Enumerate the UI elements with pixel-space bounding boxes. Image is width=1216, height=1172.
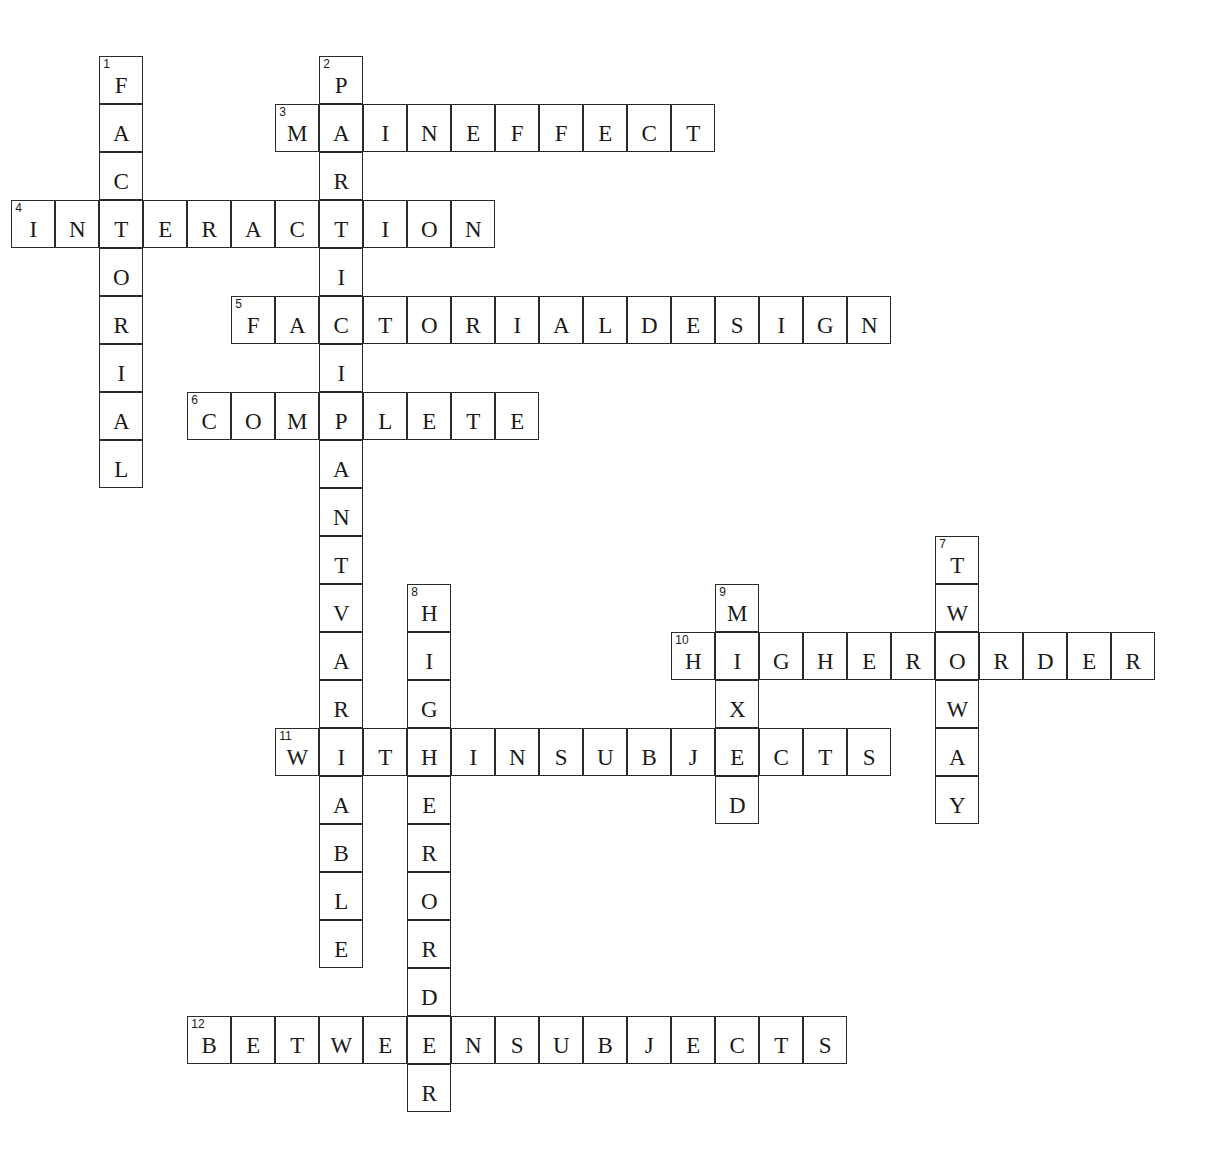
crossword-cell[interactable]: E bbox=[583, 104, 627, 152]
crossword-cell[interactable]: E bbox=[495, 392, 539, 440]
crossword-cell[interactable]: D bbox=[407, 968, 451, 1016]
crossword-cell[interactable]: M bbox=[275, 392, 319, 440]
crossword-cell[interactable]: R bbox=[319, 680, 363, 728]
crossword-cell[interactable]: A bbox=[319, 632, 363, 680]
crossword-cell[interactable]: D bbox=[715, 776, 759, 824]
crossword-cell[interactable]: W bbox=[935, 680, 979, 728]
crossword-cell[interactable]: 9M bbox=[715, 584, 759, 632]
crossword-cell[interactable]: C bbox=[627, 104, 671, 152]
crossword-cell[interactable]: I bbox=[363, 200, 407, 248]
crossword-cell[interactable]: N bbox=[319, 488, 363, 536]
crossword-cell[interactable]: N bbox=[495, 728, 539, 776]
crossword-cell[interactable]: P bbox=[319, 392, 363, 440]
crossword-cell[interactable]: C bbox=[99, 152, 143, 200]
crossword-cell[interactable]: 5F bbox=[231, 296, 275, 344]
crossword-cell[interactable]: V bbox=[319, 584, 363, 632]
crossword-cell[interactable]: E bbox=[319, 920, 363, 968]
crossword-cell[interactable]: N bbox=[451, 200, 495, 248]
crossword-cell[interactable]: T bbox=[363, 728, 407, 776]
crossword-cell[interactable]: E bbox=[407, 392, 451, 440]
crossword-cell[interactable]: C bbox=[275, 200, 319, 248]
crossword-cell[interactable]: G bbox=[759, 632, 803, 680]
crossword-cell[interactable]: S bbox=[803, 1016, 847, 1064]
crossword-cell[interactable]: A bbox=[319, 776, 363, 824]
crossword-cell[interactable]: Y bbox=[935, 776, 979, 824]
crossword-cell[interactable]: A bbox=[275, 296, 319, 344]
crossword-cell[interactable]: I bbox=[319, 248, 363, 296]
crossword-cell[interactable]: O bbox=[407, 200, 451, 248]
crossword-cell[interactable]: N bbox=[55, 200, 99, 248]
crossword-cell[interactable]: B bbox=[319, 824, 363, 872]
crossword-cell[interactable]: 11W bbox=[275, 728, 319, 776]
crossword-cell[interactable]: R bbox=[407, 1064, 451, 1112]
crossword-cell[interactable]: W bbox=[319, 1016, 363, 1064]
crossword-cell[interactable]: A bbox=[99, 104, 143, 152]
crossword-cell[interactable]: R bbox=[187, 200, 231, 248]
crossword-cell[interactable]: R bbox=[979, 632, 1023, 680]
crossword-cell[interactable]: G bbox=[803, 296, 847, 344]
crossword-cell[interactable]: E bbox=[363, 1016, 407, 1064]
crossword-cell[interactable]: E bbox=[231, 1016, 275, 1064]
crossword-cell[interactable]: T bbox=[451, 392, 495, 440]
crossword-cell[interactable]: T bbox=[319, 536, 363, 584]
crossword-cell[interactable]: U bbox=[583, 728, 627, 776]
crossword-cell[interactable]: E bbox=[451, 104, 495, 152]
crossword-cell[interactable]: A bbox=[539, 296, 583, 344]
crossword-cell[interactable]: S bbox=[495, 1016, 539, 1064]
crossword-cell[interactable]: L bbox=[363, 392, 407, 440]
crossword-cell[interactable]: E bbox=[407, 1016, 451, 1064]
crossword-cell[interactable]: S bbox=[847, 728, 891, 776]
crossword-cell[interactable]: B bbox=[583, 1016, 627, 1064]
crossword-cell[interactable]: R bbox=[319, 152, 363, 200]
crossword-cell[interactable]: E bbox=[847, 632, 891, 680]
crossword-cell[interactable]: A bbox=[319, 440, 363, 488]
crossword-cell[interactable]: B bbox=[627, 728, 671, 776]
crossword-cell[interactable]: R bbox=[451, 296, 495, 344]
crossword-cell[interactable]: E bbox=[1067, 632, 1111, 680]
crossword-cell[interactable]: R bbox=[407, 920, 451, 968]
crossword-cell[interactable]: H bbox=[803, 632, 847, 680]
crossword-cell[interactable]: L bbox=[583, 296, 627, 344]
crossword-cell[interactable]: G bbox=[407, 680, 451, 728]
crossword-cell[interactable]: J bbox=[627, 1016, 671, 1064]
crossword-cell[interactable]: C bbox=[319, 296, 363, 344]
crossword-cell[interactable]: I bbox=[451, 728, 495, 776]
crossword-cell[interactable]: I bbox=[715, 632, 759, 680]
crossword-cell[interactable]: R bbox=[99, 296, 143, 344]
crossword-cell[interactable]: X bbox=[715, 680, 759, 728]
crossword-cell[interactable]: C bbox=[715, 1016, 759, 1064]
crossword-cell[interactable]: T bbox=[671, 104, 715, 152]
crossword-cell[interactable]: L bbox=[319, 872, 363, 920]
crossword-cell[interactable]: E bbox=[671, 1016, 715, 1064]
crossword-cell[interactable]: I bbox=[495, 296, 539, 344]
crossword-cell[interactable]: I bbox=[759, 296, 803, 344]
crossword-cell[interactable]: T bbox=[275, 1016, 319, 1064]
crossword-cell[interactable]: U bbox=[539, 1016, 583, 1064]
crossword-cell[interactable]: 12B bbox=[187, 1016, 231, 1064]
crossword-cell[interactable]: C bbox=[759, 728, 803, 776]
crossword-cell[interactable]: I bbox=[319, 344, 363, 392]
crossword-cell[interactable]: N bbox=[407, 104, 451, 152]
crossword-cell[interactable]: J bbox=[671, 728, 715, 776]
crossword-cell[interactable]: R bbox=[407, 824, 451, 872]
crossword-cell[interactable]: E bbox=[671, 296, 715, 344]
crossword-cell[interactable]: H bbox=[407, 728, 451, 776]
crossword-cell[interactable]: 7T bbox=[935, 536, 979, 584]
crossword-cell[interactable]: S bbox=[715, 296, 759, 344]
crossword-cell[interactable]: A bbox=[99, 392, 143, 440]
crossword-cell[interactable]: O bbox=[935, 632, 979, 680]
crossword-cell[interactable]: F bbox=[539, 104, 583, 152]
crossword-cell[interactable]: 6C bbox=[187, 392, 231, 440]
crossword-cell[interactable]: I bbox=[363, 104, 407, 152]
crossword-cell[interactable]: T bbox=[99, 200, 143, 248]
crossword-cell[interactable]: I bbox=[319, 728, 363, 776]
crossword-cell[interactable]: O bbox=[231, 392, 275, 440]
crossword-cell[interactable]: D bbox=[1023, 632, 1067, 680]
crossword-cell[interactable]: T bbox=[803, 728, 847, 776]
crossword-cell[interactable]: E bbox=[715, 728, 759, 776]
crossword-cell[interactable]: E bbox=[143, 200, 187, 248]
crossword-cell[interactable]: O bbox=[407, 872, 451, 920]
crossword-cell[interactable]: A bbox=[935, 728, 979, 776]
crossword-cell[interactable]: R bbox=[891, 632, 935, 680]
crossword-cell[interactable]: N bbox=[451, 1016, 495, 1064]
